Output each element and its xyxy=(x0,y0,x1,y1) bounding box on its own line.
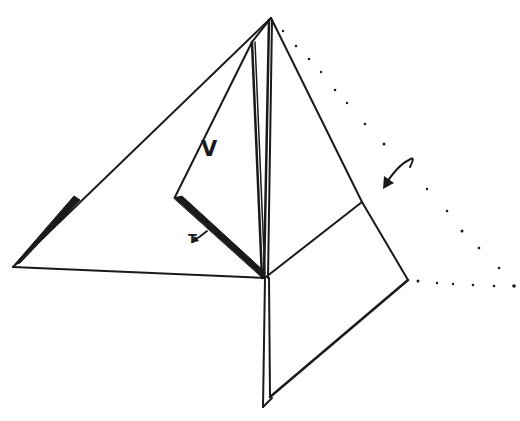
left-edge-shading xyxy=(15,196,80,264)
lower-flap xyxy=(263,278,408,407)
dotted-fold-line xyxy=(282,30,516,288)
left-flap xyxy=(13,18,271,278)
origami-diagram: T V xyxy=(0,0,520,421)
v-label: V xyxy=(201,137,218,161)
fold-arrow-icon xyxy=(383,159,413,189)
right-flap xyxy=(266,18,408,280)
central-folds xyxy=(252,18,272,278)
